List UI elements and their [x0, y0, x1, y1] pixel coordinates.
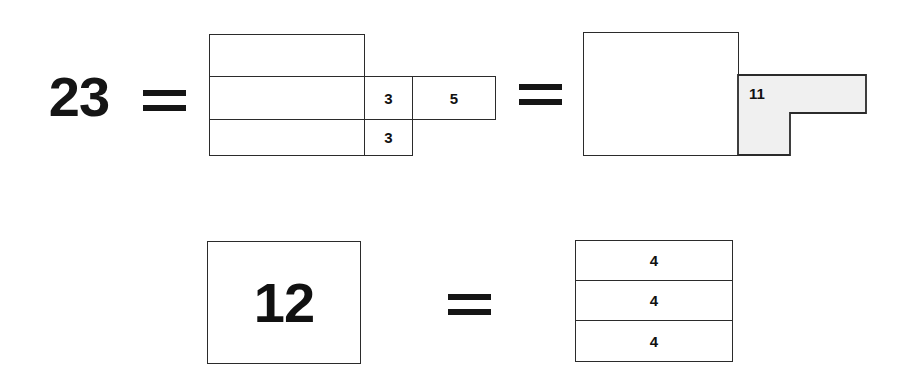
side-cell-three-lower-label: 3: [384, 130, 392, 145]
equals-bar-lower: [143, 105, 186, 111]
top-equals-sign-2: [519, 84, 562, 105]
equals-bar-upper: [519, 84, 562, 90]
equals-bar-upper: [143, 90, 186, 96]
block-row-bottom: [209, 119, 365, 156]
right-white-square: [583, 32, 739, 156]
stack-row-3-label: 4: [650, 334, 658, 349]
stack-row-3: 4: [575, 320, 733, 362]
block-row-top: [209, 34, 365, 77]
bottom-equals-sign: [448, 294, 491, 315]
bottom-left-box: 12: [207, 241, 361, 364]
side-cell-three-upper-label: 3: [384, 91, 392, 106]
stack-row-2: 4: [575, 280, 733, 321]
bottom-left-value: 12: [254, 275, 314, 331]
side-cell-three-lower: 3: [364, 119, 413, 156]
stack-row-1: 4: [575, 240, 733, 281]
side-cell-three-upper: 3: [364, 76, 413, 120]
shaded-lshape-label: 11: [749, 86, 765, 101]
top-equals-sign-1: [143, 90, 186, 111]
equals-bar-lower: [448, 309, 491, 315]
equals-bar-upper: [448, 294, 491, 300]
equals-bar-lower: [519, 99, 562, 105]
top-left-value: 23: [36, 68, 122, 126]
far-cell-five: 5: [412, 76, 496, 120]
diagram-canvas: 23 3 3 5 11 12: [0, 0, 908, 381]
block-row-middle: [209, 76, 365, 120]
stack-row-1-label: 4: [650, 253, 658, 268]
shaded-lshape-eleven: 11: [737, 74, 869, 158]
stack-row-2-label: 4: [650, 293, 658, 308]
far-cell-five-label: 5: [450, 91, 458, 106]
